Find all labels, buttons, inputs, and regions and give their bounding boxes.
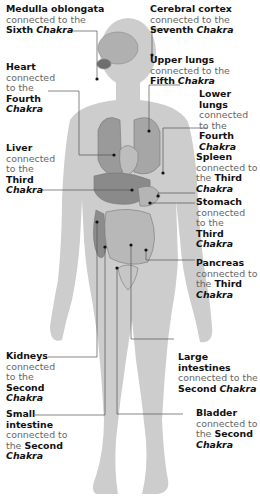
- label-kidneys: Kidneys connected to the Second Chakra: [6, 351, 56, 404]
- connector-text: connected to the: [150, 65, 230, 76]
- chakra-number: Third: [214, 278, 242, 289]
- chakra-word: Chakra: [196, 183, 233, 194]
- chakra-word: Chakra: [6, 450, 43, 461]
- connector-text: connected to the: [196, 207, 245, 229]
- chakra-number: Second: [24, 440, 63, 451]
- label-cerebral-cortex: Cerebral cortex connected to the Seventh…: [150, 4, 260, 36]
- chakra-number: Third: [196, 228, 224, 239]
- connector-text: connected to the: [6, 361, 55, 383]
- connector-text: connected to the: [199, 109, 248, 131]
- connector-text: connected to the: [6, 14, 86, 25]
- chakra-number: Third: [214, 172, 242, 183]
- connector-text: connected to the: [150, 14, 230, 25]
- chakra-word: Chakra: [6, 392, 43, 403]
- label-large-intestines: Large intestines connected to the Second…: [178, 352, 260, 394]
- chakra-number: Sixth: [6, 24, 33, 35]
- chakra-word: Chakra: [196, 238, 233, 249]
- chakra-word: Chakra: [178, 75, 215, 86]
- chakra-word: Chakra: [36, 24, 73, 35]
- chakra-number: Fourth: [199, 130, 234, 141]
- chakra-word: Chakra: [219, 383, 256, 394]
- chakra-number: Seventh: [150, 24, 193, 35]
- chakra-number: Fourth: [6, 93, 41, 104]
- label-small-intestine: Small intestine connected to the Second …: [6, 409, 68, 462]
- label-stomach: Stomach connected to the Third Chakra: [196, 197, 254, 250]
- label-liver: Liver connected to the Third Chakra: [6, 143, 56, 196]
- label-lower-lungs: Lower lungs connected to the Fourth Chak…: [199, 89, 259, 153]
- organ-name: Small intestine: [6, 409, 68, 430]
- connector-text: connected to the: [6, 153, 55, 175]
- chakra-word: Chakra: [6, 184, 43, 195]
- chakra-word: Chakra: [196, 439, 233, 450]
- connector-text: connected to the: [6, 72, 55, 94]
- chakra-number: Second: [178, 383, 217, 394]
- label-spleen: Spleen connected to the Third Chakra: [196, 152, 260, 194]
- label-heart: Heart connected to the Fourth Chakra: [6, 62, 66, 115]
- connector-text: connected to the: [178, 372, 258, 383]
- label-pancreas: Pancreas connected to the Third Chakra: [196, 258, 260, 300]
- label-bladder: Bladder connected to the Second Chakra: [196, 408, 260, 450]
- chakra-number: Fifth: [150, 75, 175, 86]
- label-medulla-oblongata: Medulla oblongata connected to the Sixth…: [6, 4, 116, 36]
- chakra-number: Second: [6, 382, 45, 393]
- organ-name: Lower lungs: [199, 89, 259, 110]
- organ-name: Large intestines: [178, 352, 260, 373]
- chakra-word: Chakra: [196, 24, 233, 35]
- label-upper-lungs: Upper lungs connected to the Fifth Chakr…: [150, 55, 260, 87]
- chakra-word: Chakra: [6, 103, 43, 114]
- chakra-number: Third: [6, 174, 34, 185]
- chakra-word: Chakra: [196, 289, 233, 300]
- chakra-number: Second: [214, 428, 253, 439]
